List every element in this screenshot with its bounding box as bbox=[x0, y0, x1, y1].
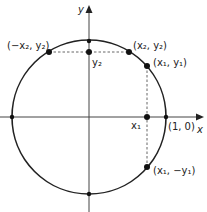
point-y2 bbox=[86, 49, 92, 55]
label-x1-neg-y1: (x₁, −y₁) bbox=[153, 165, 195, 176]
x-axis-arrow-icon bbox=[196, 114, 204, 121]
label-x1-y1: (x₁, y₁) bbox=[153, 57, 187, 68]
point-x1 bbox=[144, 114, 150, 120]
unit-circle-diagram: y x (−x₂, y₂) (x₂, y₂) (x₁, y₁) y₂ x₁ (1… bbox=[0, 0, 207, 212]
y-axis-arrow-icon bbox=[86, 5, 93, 13]
label-x1: x₁ bbox=[131, 120, 141, 131]
point-top bbox=[87, 39, 91, 43]
label-one-zero: (1, 0) bbox=[168, 121, 195, 132]
point-left bbox=[10, 115, 14, 119]
point-x1-neg-y1 bbox=[144, 164, 150, 170]
label-neg-x2-y2: (−x₂, y₂) bbox=[7, 40, 49, 51]
point-x1-y1 bbox=[144, 63, 150, 69]
x-axis-label: x bbox=[196, 124, 203, 135]
point-bottom bbox=[87, 192, 91, 196]
label-y2: y₂ bbox=[92, 57, 102, 68]
point-one-zero bbox=[164, 115, 168, 119]
point-x2-y2 bbox=[126, 49, 132, 55]
label-x2-y2: (x₂, y₂) bbox=[133, 40, 167, 51]
y-axis-label: y bbox=[77, 4, 85, 15]
